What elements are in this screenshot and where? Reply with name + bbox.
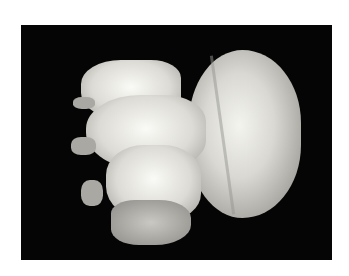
- jellyfish-photo: [21, 25, 332, 260]
- oral-arm: [111, 200, 191, 245]
- arm-fragment: [71, 137, 96, 155]
- arm-fragment: [73, 97, 95, 109]
- arm-fragment: [81, 180, 103, 206]
